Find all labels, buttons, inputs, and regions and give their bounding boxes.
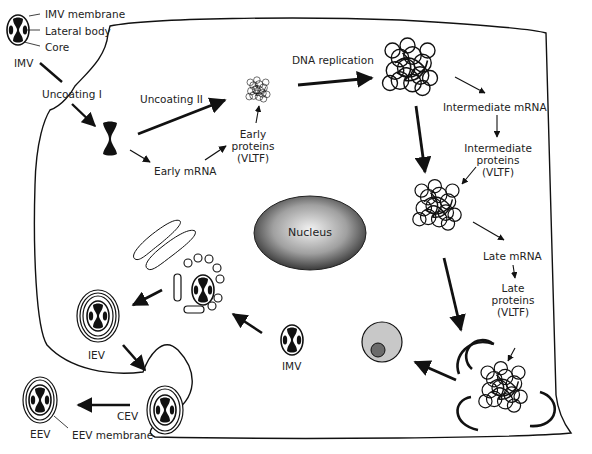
label-early-proteins: Early proteins (VLTF)	[228, 128, 278, 164]
label-intermediate-proteins: Intermediate proteins (VLTF)	[462, 142, 534, 178]
label-dna-replication: DNA replication	[292, 54, 374, 66]
label-late-proteins: Late proteins (VLTF)	[488, 282, 538, 318]
label-uncoating-2: Uncoating II	[140, 93, 203, 105]
label-iev: IEV	[88, 349, 105, 361]
nucleus-label: Nucleus	[254, 227, 366, 239]
label-imv-particle: IMV	[282, 360, 301, 372]
label-early-mrna: Early mRNA	[154, 165, 216, 177]
imv-particle-icon	[281, 325, 303, 355]
early-factory-icon	[246, 77, 270, 102]
cev-particle-icon	[147, 386, 183, 434]
imv-legend-icon	[7, 15, 29, 45]
label-eev: EEV	[30, 428, 50, 440]
legend-lateral-body: Lateral body	[45, 25, 111, 37]
legend-imv: IMV	[14, 57, 33, 69]
wrapping-imv-icon	[174, 254, 224, 313]
label-late-mrna: Late mRNA	[483, 250, 542, 262]
label-eev-membrane: EEV membrane	[72, 429, 153, 441]
legend-imv-membrane: IMV membrane	[45, 8, 125, 20]
label-intermediate-mrna: Intermediate mRNA	[443, 101, 547, 113]
core-icon	[103, 122, 117, 156]
late-factory-icon	[479, 362, 527, 413]
replication-factory-icon	[383, 38, 438, 96]
legend-core: Core	[45, 41, 69, 53]
label-uncoating-1: Uncoating I	[42, 88, 102, 100]
intermediate-factory-icon	[413, 180, 461, 231]
eev-particle-icon	[23, 377, 57, 423]
iev-particle-icon	[77, 290, 119, 342]
label-cev: CEV	[117, 410, 138, 422]
